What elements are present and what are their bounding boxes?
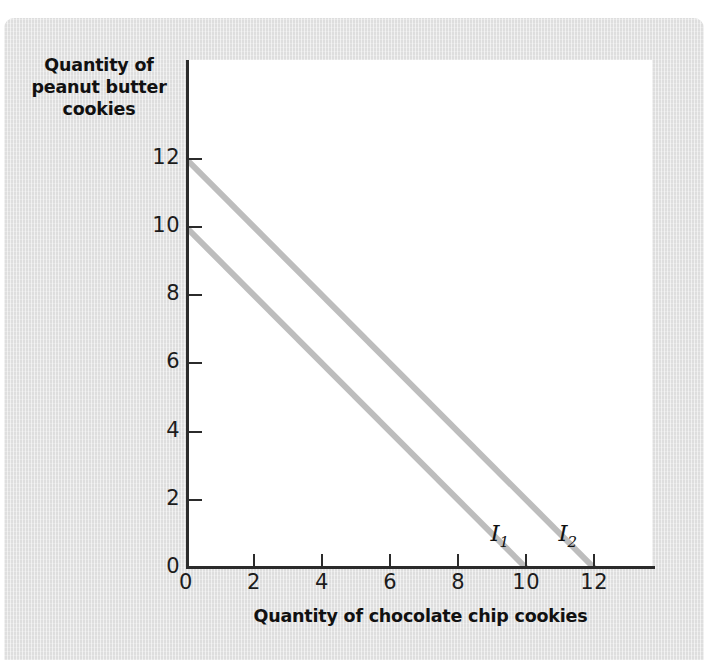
y-axis-title-line-1: Quantity of (18, 54, 180, 76)
y-axis-tick (189, 294, 202, 296)
x-axis-tick (525, 554, 527, 567)
y-axis-tick-label: 6 (120, 349, 180, 373)
y-axis-tick (189, 499, 202, 501)
y-axis-tick-label: 10 (120, 213, 180, 237)
curve-i1 (186, 227, 526, 568)
curve-label-letter: I (490, 520, 499, 546)
x-axis-tick-label: 2 (224, 570, 284, 594)
curve-label-letter: I (558, 520, 567, 546)
x-axis-tick (253, 554, 255, 567)
y-axis-tick-label: 4 (120, 418, 180, 442)
y-axis-tick-label: 8 (120, 281, 180, 305)
y-axis-line (186, 60, 189, 569)
y-axis-title-line-3: cookies (18, 98, 180, 120)
x-axis-tick-label: 6 (360, 570, 420, 594)
x-axis-title: Quantity of chocolate chip cookies (186, 606, 655, 626)
curve-label-subscript: 1 (500, 532, 510, 550)
indifference-curves (186, 60, 652, 568)
x-axis-tick-label: 4 (292, 570, 352, 594)
x-axis-tick-label: 8 (428, 570, 488, 594)
curve-i2 (186, 159, 594, 568)
x-axis-tick (593, 554, 595, 567)
y-axis-tick (189, 362, 202, 364)
y-axis-tick-label: 12 (120, 145, 180, 169)
x-axis-tick (321, 554, 323, 567)
x-axis-tick-label: 10 (496, 570, 556, 594)
y-axis-tick-label: 2 (120, 486, 180, 510)
x-axis-line (186, 566, 655, 569)
figure-panel: Quantity of peanut butter cookies 024681… (4, 18, 704, 660)
x-axis-tick (457, 554, 459, 567)
x-axis-tick (389, 554, 391, 567)
x-axis-tick-label: 0 (156, 570, 216, 594)
curve-label-i1: I1 (490, 520, 509, 551)
y-axis-tick (189, 431, 202, 433)
curve-label-i2: I2 (558, 520, 577, 551)
curve-label-subscript: 2 (568, 532, 578, 550)
y-axis-title-line-2: peanut butter (18, 76, 180, 98)
y-axis-tick (189, 158, 202, 160)
y-axis-tick (189, 226, 202, 228)
y-axis-title: Quantity of peanut butter cookies (18, 54, 180, 120)
x-axis-tick-label: 12 (564, 570, 624, 594)
